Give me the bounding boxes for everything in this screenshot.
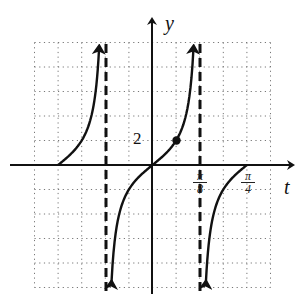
x-tick-label-pi-over-4: π 4 <box>241 170 255 195</box>
point-marker <box>172 136 180 144</box>
x-tick-label-pi-over-8: π 8 <box>193 170 207 195</box>
t-axis-label: t <box>284 176 290 199</box>
tangent-graph <box>0 0 300 294</box>
y-axis-label: y <box>165 12 174 35</box>
y-tick-label-2: 2 <box>133 129 142 149</box>
curve-branch-left <box>58 47 99 165</box>
